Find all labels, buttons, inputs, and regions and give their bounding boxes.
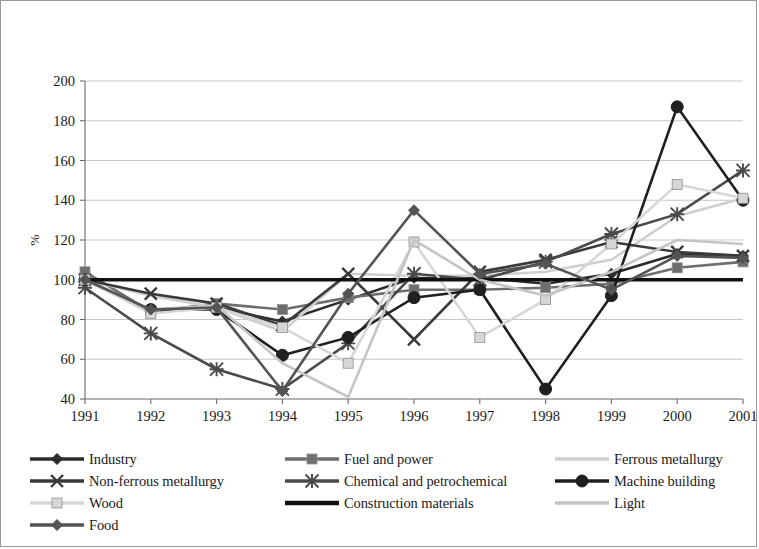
marker-square xyxy=(606,239,616,249)
legend-item-label: Fuel and power xyxy=(344,451,433,467)
x-tick-label: 1996 xyxy=(400,408,429,424)
y-tick-label: 160 xyxy=(53,153,75,169)
x-tick-label: 2001 xyxy=(729,408,758,424)
marker-square xyxy=(541,283,551,293)
y-tick-label: 200 xyxy=(53,73,75,89)
marker-asterisk xyxy=(144,326,158,340)
legend-item-label: Ferrous metallurgy xyxy=(614,451,723,467)
legend-item-label: Wood xyxy=(89,495,123,511)
marker-circle xyxy=(474,284,486,296)
legend-swatch xyxy=(554,473,610,489)
legend-item-label: Chemical and petrochemical xyxy=(344,473,507,489)
line-chart-svg: 406080100120140160180200%199119921993199… xyxy=(1,1,758,441)
legend-item[interactable]: Machine building xyxy=(554,470,759,492)
legend-item-label: Machine building xyxy=(614,473,715,489)
legend-item[interactable]: Food xyxy=(29,514,284,536)
y-tick-label: 120 xyxy=(53,232,75,248)
marker-square xyxy=(277,322,287,332)
legend-marker xyxy=(52,520,63,531)
marker-asterisk xyxy=(736,163,750,177)
x-tick-label: 1999 xyxy=(597,408,626,424)
marker-circle xyxy=(671,101,683,113)
legend-swatch xyxy=(554,451,610,467)
marker-asterisk xyxy=(305,474,319,488)
x-tick-label: 2000 xyxy=(663,408,692,424)
marker-diamond xyxy=(52,520,63,531)
chart-legend: IndustryNon-ferrous metallurgyWoodFood F… xyxy=(29,448,741,540)
legend-swatch xyxy=(284,451,340,467)
legend-marker xyxy=(576,475,588,487)
legend-item-label: Food xyxy=(89,517,118,533)
marker-square xyxy=(672,263,682,273)
legend-swatch-line xyxy=(284,495,340,511)
marker-circle xyxy=(576,475,588,487)
y-tick-label: 140 xyxy=(53,192,75,208)
legend-item-label: Industry xyxy=(89,451,137,467)
marker-circle xyxy=(408,292,420,304)
legend-marker xyxy=(52,454,63,465)
legend-item[interactable]: Wood xyxy=(29,492,284,514)
x-tick-label: 1991 xyxy=(71,408,100,424)
legend-swatch-line xyxy=(284,473,340,489)
legend-swatch-line xyxy=(29,517,85,533)
x-tick-label: 1992 xyxy=(136,408,165,424)
legend-swatch xyxy=(29,517,85,533)
chart-figure: 406080100120140160180200%199119921993199… xyxy=(0,0,757,547)
legend-swatch xyxy=(554,495,610,511)
marker-square xyxy=(52,498,62,508)
legend-item[interactable]: Fuel and power xyxy=(284,448,539,470)
y-tick-label: 80 xyxy=(61,312,76,328)
legend-column-2: Fuel and powerChemical and petrochemical… xyxy=(284,448,539,514)
legend-swatch xyxy=(29,451,85,467)
marker-square xyxy=(672,179,682,189)
legend-swatch xyxy=(284,473,340,489)
x-tick-label: 1998 xyxy=(531,408,560,424)
x-tick-label: 1993 xyxy=(202,408,231,424)
y-tick-label: 40 xyxy=(61,391,76,407)
x-tick-label: 1995 xyxy=(334,408,363,424)
legend-swatch-line xyxy=(29,451,85,467)
legend-item[interactable]: Ferrous metallurgy xyxy=(554,448,759,470)
legend-swatch xyxy=(284,495,340,511)
legend-item[interactable]: Non-ferrous metallurgy xyxy=(29,470,284,492)
marker-circle xyxy=(540,383,552,395)
marker-asterisk xyxy=(670,207,684,221)
legend-item-label: Non-ferrous metallurgy xyxy=(89,473,224,489)
x-tick-label: 1994 xyxy=(268,408,298,424)
marker-diamond xyxy=(52,454,63,465)
marker-circle xyxy=(342,331,354,343)
y-tick-label: 180 xyxy=(53,113,75,129)
marker-x xyxy=(408,333,420,345)
legend-item[interactable]: Chemical and petrochemical xyxy=(284,470,539,492)
marker-square xyxy=(343,358,353,368)
legend-item[interactable]: Light xyxy=(554,492,759,514)
legend-column-1: IndustryNon-ferrous metallurgyWoodFood xyxy=(29,448,284,536)
legend-marker xyxy=(305,474,319,488)
marker-square xyxy=(307,454,317,464)
marker-square xyxy=(738,193,748,203)
legend-item-label: Light xyxy=(614,495,645,511)
legend-swatch-line xyxy=(284,451,340,467)
marker-square xyxy=(277,305,287,315)
legend-marker xyxy=(307,454,317,464)
marker-asterisk xyxy=(210,362,224,376)
y-tick-label: 60 xyxy=(61,351,76,367)
legend-column-3: Ferrous metallurgyMachine buildingLight xyxy=(554,448,759,514)
legend-swatch-line xyxy=(554,495,610,511)
legend-swatch xyxy=(29,473,85,489)
x-tick-label: 1997 xyxy=(465,408,494,424)
legend-swatch xyxy=(29,495,85,511)
legend-item[interactable]: Construction materials xyxy=(284,492,539,514)
legend-item[interactable]: Industry xyxy=(29,448,284,470)
y-axis-title: % xyxy=(27,234,42,245)
plot-area: 406080100120140160180200%199119921993199… xyxy=(1,1,758,441)
legend-marker xyxy=(52,498,62,508)
legend-swatch-line xyxy=(554,451,610,467)
legend-item-label: Construction materials xyxy=(344,495,473,511)
y-tick-label: 100 xyxy=(53,272,75,288)
marker-square xyxy=(475,332,485,342)
legend-swatch-line xyxy=(554,473,610,489)
legend-swatch-line xyxy=(29,495,85,511)
legend-swatch-line xyxy=(29,473,85,489)
